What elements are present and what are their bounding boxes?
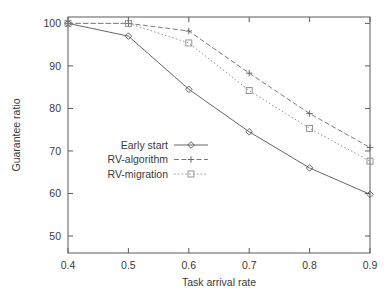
y-axis-title: Guarantee ratio — [10, 98, 22, 171]
x-tick-label: 0.6 — [181, 259, 196, 271]
legend-label-1: RV-algorithm — [108, 153, 169, 165]
y-tick-label: 90 — [49, 60, 61, 72]
y-tick-label: 50 — [49, 230, 61, 242]
x-tick-label: 0.4 — [61, 259, 76, 271]
y-tick-label: 70 — [49, 145, 61, 157]
legend-label-2: RV-migration — [108, 168, 169, 180]
y-tick-label: 80 — [49, 102, 61, 114]
chart-figure: 5060708090100 0.40.50.60.70.80.9 Early s… — [0, 0, 386, 297]
x-axis-title: Task arrival rate — [182, 276, 256, 288]
legend-label-0: Early start — [121, 139, 168, 151]
y-tick-label: 60 — [49, 187, 61, 199]
line-chart: 5060708090100 0.40.50.60.70.80.9 Early s… — [0, 0, 386, 297]
x-tick-label: 0.7 — [242, 259, 257, 271]
y-tick-label: 100 — [43, 17, 61, 29]
x-tick-label: 0.9 — [363, 259, 378, 271]
x-tick-label: 0.5 — [121, 259, 136, 271]
x-tick-label: 0.8 — [302, 259, 317, 271]
